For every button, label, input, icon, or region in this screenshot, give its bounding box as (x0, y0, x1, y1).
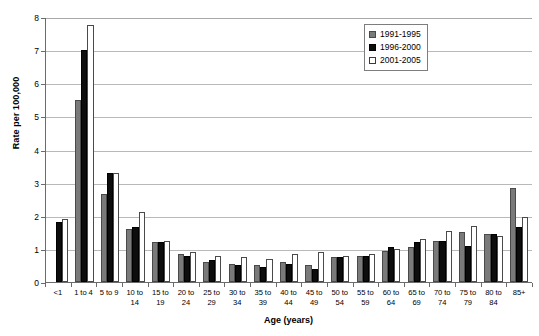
y-axis-tick-mark (41, 283, 45, 284)
bar-group (327, 18, 353, 282)
x-axis-tick-mark (353, 283, 354, 287)
x-axis-tick-mark (122, 283, 123, 287)
y-axis-tick-mark (41, 18, 45, 19)
bar-group (276, 18, 302, 282)
bar-group (199, 18, 225, 282)
y-axis-tick-mark (41, 84, 45, 85)
bar (420, 239, 426, 282)
legend-swatch-icon (369, 57, 376, 64)
x-axis-tick-mark (276, 283, 277, 287)
bar (369, 254, 375, 282)
y-axis-tick-mark (41, 184, 45, 185)
legend-item: 1991-1995 (369, 28, 421, 41)
x-axis-tick-mark (250, 283, 251, 287)
x-axis-tick-label: 85+ (506, 288, 532, 307)
bar (62, 219, 68, 282)
x-axis-tick-label: 25 to 29 (199, 288, 225, 307)
bar (318, 252, 324, 282)
x-axis-tick-mark (301, 283, 302, 287)
bar (113, 173, 119, 282)
legend-item: 1996-2000 (369, 41, 421, 54)
bar-group (430, 18, 456, 282)
bar-chart: Rate per 100,000 <11 to 45 to 910 to 141… (0, 0, 539, 336)
bar-group (148, 18, 174, 282)
bar-group (72, 18, 98, 282)
y-axis-tick-mark (41, 117, 45, 118)
y-axis-tick-label: 2 (17, 213, 39, 221)
x-axis-tick-labels: <11 to 45 to 910 to 1415 to 1920 to 2425… (45, 288, 532, 307)
x-axis-tick-label: 35 to 39 (250, 288, 276, 307)
plot-area (45, 18, 532, 283)
bar (446, 231, 452, 282)
legend-label: 1991-1995 (380, 30, 421, 39)
y-axis-tick-label: 5 (17, 113, 39, 121)
x-axis-tick-label: 65 to 69 (404, 288, 430, 307)
x-axis-tick-mark (96, 283, 97, 287)
x-axis-tick-mark (199, 283, 200, 287)
bar (292, 254, 298, 282)
x-axis-tick-mark (506, 283, 507, 287)
bar (241, 257, 247, 282)
bar-group (225, 18, 251, 282)
y-axis-tick-label: 3 (17, 180, 39, 188)
bar (190, 252, 196, 282)
x-axis-tick-label: 5 to 9 (96, 288, 122, 307)
x-axis-tick-marks (45, 283, 532, 287)
y-axis-tick-label: 1 (17, 246, 39, 254)
x-axis-tick-mark (532, 283, 533, 287)
x-axis-tick-label: 75 to 79 (455, 288, 481, 307)
bar (266, 259, 272, 282)
x-axis-tick-mark (45, 283, 46, 287)
bar (215, 256, 221, 283)
x-axis-tick-label: 15 to 19 (148, 288, 174, 307)
y-axis-tick-mark (41, 217, 45, 218)
x-axis-tick-mark (148, 283, 149, 287)
y-axis-tick-label: 6 (17, 80, 39, 88)
bar (497, 236, 503, 282)
y-axis-tick-label: 8 (17, 14, 39, 22)
legend-swatch-icon (369, 31, 376, 38)
legend-label: 2001-2005 (380, 56, 421, 65)
x-axis-tick-mark (173, 283, 174, 287)
x-axis-title: Age (years) (45, 315, 532, 325)
x-axis-tick-mark (481, 283, 482, 287)
bar-group (123, 18, 149, 282)
x-axis-tick-mark (404, 283, 405, 287)
x-axis-tick-mark (71, 283, 72, 287)
x-axis-tick-mark (224, 283, 225, 287)
x-axis-tick-label: 20 to 24 (173, 288, 199, 307)
bar (394, 249, 400, 282)
x-axis-tick-label: 40 to 44 (276, 288, 302, 307)
bar (139, 212, 145, 282)
x-axis-tick-label: 1 to 4 (71, 288, 97, 307)
x-axis-tick-label: 55 to 59 (353, 288, 379, 307)
bar-group (97, 18, 123, 282)
bar-group (481, 18, 507, 282)
legend-item: 2001-2005 (369, 54, 421, 67)
bar (164, 241, 170, 282)
y-axis-tick-mark (41, 250, 45, 251)
bar (343, 256, 349, 283)
y-axis-tick-mark (41, 51, 45, 52)
legend-swatch-icon (369, 44, 376, 51)
x-axis-tick-label: 80 to 84 (481, 288, 507, 307)
bar-group (302, 18, 328, 282)
bar (522, 217, 528, 282)
x-axis-tick-mark (327, 283, 328, 287)
x-axis-tick-label: <1 (45, 288, 71, 307)
x-axis-tick-label: 70 to 74 (429, 288, 455, 307)
y-axis-tick-label: 7 (17, 47, 39, 55)
x-axis-tick-label: 30 to 34 (224, 288, 250, 307)
x-axis-tick-mark (378, 283, 379, 287)
bar-group (251, 18, 277, 282)
bar-group (46, 18, 72, 282)
y-axis-tick-label: 4 (17, 147, 39, 155)
bar-group (455, 18, 481, 282)
x-axis-tick-label: 60 to 64 (378, 288, 404, 307)
bar-group (174, 18, 200, 282)
y-axis-tick-label: 0 (17, 279, 39, 287)
legend: 1991-19951996-20002001-2005 (364, 24, 428, 71)
bar-groups (46, 18, 532, 282)
y-axis-tick-mark (41, 151, 45, 152)
bar (471, 226, 477, 282)
